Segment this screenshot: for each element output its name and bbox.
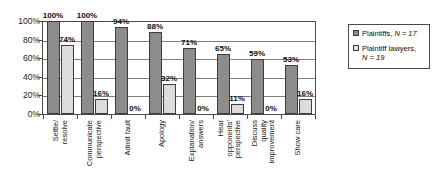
bar-value-label: 16%	[93, 89, 109, 98]
x-axis-label-line: resolve	[60, 120, 69, 176]
bar-group: 100%74%	[43, 21, 77, 114]
bar-plaintiffs[interactable]	[149, 32, 162, 114]
bar-plaintiffs[interactable]	[81, 21, 94, 114]
bar-plaintiffs[interactable]	[183, 48, 196, 114]
bar-slot-plaintiff_lawyers: 11%	[231, 21, 244, 114]
bar-value-label: 53%	[283, 55, 299, 64]
bar-plaintiff_lawyers[interactable]	[61, 45, 74, 114]
bar-plaintiff_lawyers[interactable]	[163, 84, 176, 114]
x-label-cell: Show care	[281, 119, 315, 177]
bar-plaintiff_lawyers[interactable]	[299, 99, 312, 114]
bar-plaintiffs[interactable]	[217, 54, 230, 114]
bar-slot-plaintiffs: 53%	[285, 21, 298, 114]
x-axis-label-line: Admit fault	[124, 120, 133, 176]
y-tick-label-40: 40%	[2, 73, 40, 81]
chart-root: 100% 80% 60% 40% 20% 0% 100%74%100%16%94…	[0, 0, 435, 177]
y-tick-label-80: 80%	[2, 36, 40, 44]
bar-slot-plaintiff_lawyers: 0%	[265, 21, 278, 114]
x-label-cell: Explanation/answers	[179, 119, 213, 177]
legend-item-plaintiff-lawyers[interactable]: Plaintiff lawyers,N = 19	[353, 44, 425, 63]
bar-value-label: 16%	[297, 89, 313, 98]
bar-slot-plaintiff_lawyers: 32%	[163, 21, 176, 114]
bar-value-label: 11%	[229, 94, 245, 103]
bar-group: 100%16%	[77, 21, 111, 114]
x-axis-label: Communicateperspective	[86, 120, 103, 176]
bar-groups: 100%74%100%16%94%0%88%32%71%0%65%11%59%0…	[43, 21, 315, 114]
legend-item-plaintiffs[interactable]: Plaintiffs, N = 17	[353, 29, 425, 39]
bar-slot-plaintiffs: 100%	[81, 21, 94, 114]
bar-slot-plaintiff_lawyers: 0%	[129, 21, 142, 114]
bar-value-label: 71%	[181, 38, 197, 47]
x-label-cell: Discussqualityimprovement	[247, 119, 281, 177]
y-tick-label-100: 100%	[2, 17, 40, 25]
bar-value-label: 32%	[161, 74, 177, 83]
y-tick-label-0: 0%	[2, 110, 40, 118]
x-axis-label: Discussqualityimprovement	[251, 120, 277, 176]
bar-group: 59%0%	[247, 21, 281, 114]
bar-slot-plaintiff_lawyers: 74%	[61, 21, 74, 114]
x-axis-label: Apology	[158, 120, 167, 176]
bar-slot-plaintiffs: 94%	[115, 21, 128, 114]
legend-label-plaintiff-lawyers: Plaintiff lawyers,N = 19	[362, 44, 416, 63]
bar-slot-plaintiff_lawyers: 16%	[299, 21, 312, 114]
bar-value-label: 94%	[113, 17, 129, 26]
x-axis-label: Explanation/answers	[188, 120, 205, 176]
bar-slot-plaintiffs: 71%	[183, 21, 196, 114]
x-axis-label: Settle/resolve	[52, 120, 69, 176]
x-axis-label-line: Apology	[158, 120, 167, 176]
bar-group: 94%0%	[111, 21, 145, 114]
bar-slot-plaintiff_lawyers: 0%	[197, 21, 210, 114]
x-axis-label: Hearopponents'perspective	[217, 120, 243, 176]
x-label-cell: Settle/resolve	[43, 119, 77, 177]
x-axis-label-line: Show care	[294, 120, 303, 176]
bar-plaintiffs[interactable]	[47, 21, 60, 114]
bar-value-label: 65%	[215, 44, 231, 53]
bar-slot-plaintiffs: 88%	[149, 21, 162, 114]
x-axis-label-line: answers	[196, 120, 205, 176]
x-axis-label: Show care	[294, 120, 303, 176]
legend-swatch-icon-plaintiffs	[353, 30, 359, 36]
bar-value-label: 0%	[129, 104, 141, 113]
bar-value-label: 0%	[265, 104, 277, 113]
bar-plaintiff_lawyers[interactable]	[231, 104, 244, 114]
bar-plaintiffs[interactable]	[285, 65, 298, 114]
bar-value-label: 88%	[147, 22, 163, 31]
x-axis-label-line: perspective	[234, 120, 243, 176]
bar-value-label: 100%	[43, 11, 63, 20]
chart-legend: Plaintiffs, N = 17 Plaintiff lawyers,N =…	[348, 24, 430, 69]
bar-slot-plaintiffs: 65%	[217, 21, 230, 114]
bar-value-label: 59%	[249, 49, 265, 58]
x-axis-labels: Settle/resolveCommunicateperspectiveAdmi…	[43, 119, 315, 177]
bar-slot-plaintiff_lawyers: 16%	[95, 21, 108, 114]
x-label-cell: Hearopponents'perspective	[213, 119, 247, 177]
x-axis-label: Admit fault	[124, 120, 133, 176]
legend-label-plaintiffs: Plaintiffs, N = 17	[362, 29, 417, 39]
y-tick-label-60: 60%	[2, 54, 40, 62]
x-axis-label-line: perspective	[94, 120, 103, 176]
bar-group: 53%16%	[281, 21, 315, 114]
bar-plaintiffs[interactable]	[251, 59, 264, 114]
y-tick-label-20: 20%	[2, 91, 40, 99]
bar-slot-plaintiffs: 100%	[47, 21, 60, 114]
bar-plaintiff_lawyers[interactable]	[95, 99, 108, 114]
x-label-cell: Apology	[145, 119, 179, 177]
bar-group: 88%32%	[145, 21, 179, 114]
bar-value-label: 100%	[77, 11, 97, 20]
bar-value-label: 0%	[197, 104, 209, 113]
bar-group: 65%11%	[213, 21, 247, 114]
legend-swatch-icon-plaintiff-lawyers	[353, 45, 359, 51]
bar-plaintiffs[interactable]	[115, 27, 128, 114]
x-label-cell: Admit fault	[111, 119, 145, 177]
bar-slot-plaintiffs: 59%	[251, 21, 264, 114]
x-label-cell: Communicateperspective	[77, 119, 111, 177]
x-tick-mark	[315, 115, 316, 119]
x-axis-label-line: improvement	[268, 120, 277, 176]
bar-value-label: 74%	[59, 35, 75, 44]
bar-group: 71%0%	[179, 21, 213, 114]
y-axis: 100% 80% 60% 40% 20% 0%	[0, 21, 40, 115]
